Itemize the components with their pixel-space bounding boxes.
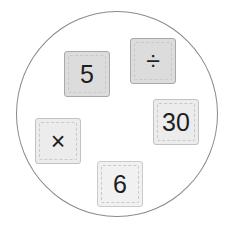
tile-label: 6 bbox=[113, 170, 127, 199]
tile-label: 5 bbox=[80, 60, 94, 89]
tile-number-5[interactable]: 5 bbox=[64, 51, 110, 97]
tile-number-6[interactable]: 6 bbox=[97, 161, 143, 207]
tile-multiply-operator[interactable]: × bbox=[35, 118, 81, 164]
tile-label: 30 bbox=[162, 108, 190, 137]
divide-icon: ÷ bbox=[146, 47, 160, 76]
tile-number-30[interactable]: 30 bbox=[153, 99, 199, 145]
tile-divide-operator[interactable]: ÷ bbox=[130, 38, 176, 84]
multiply-icon: × bbox=[51, 127, 66, 156]
